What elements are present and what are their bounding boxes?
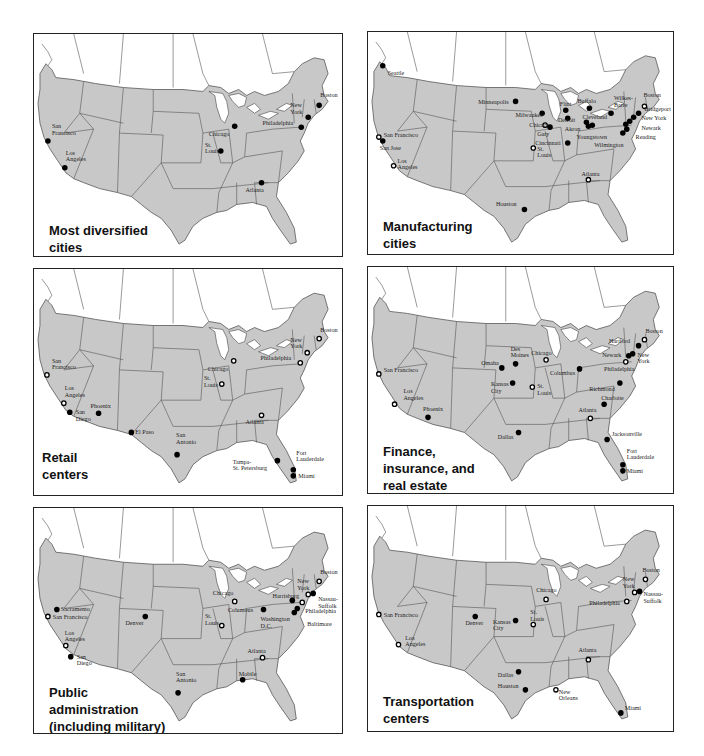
filled-city-dot-icon: [587, 106, 593, 112]
city-label: Boston: [645, 328, 662, 334]
filled-city-dot-icon: [261, 607, 267, 613]
city-label: Baltimore: [307, 619, 332, 626]
city-label: Miami: [627, 468, 643, 474]
city-label: Youngstown: [577, 134, 608, 140]
canada-border-line: [119, 269, 123, 319]
city-label: El Paso: [135, 428, 154, 435]
city-label: Charlotte: [601, 395, 624, 401]
filled-city-dot-icon: [96, 410, 102, 416]
open-city-dot-icon: [62, 401, 66, 405]
city-label: NewYork: [638, 352, 651, 365]
city-label: Atlanta: [579, 647, 597, 653]
map-panel-public-administration: BostonNewYorkNassau-SuffolkHarrisburgPhi…: [33, 507, 343, 734]
canada-border-line: [74, 269, 84, 309]
filled-city-dot-icon: [620, 130, 626, 136]
city-label: San Francisco: [384, 132, 418, 138]
filled-city-dot-icon: [601, 401, 607, 407]
open-city-dot-icon: [391, 164, 395, 168]
city-label: San Francisco: [53, 613, 88, 620]
filled-city-dot-icon: [298, 124, 304, 130]
open-city-dot-icon: [586, 657, 590, 661]
map-panel-finance: BostonHartfordNewarkNewYorkPhiladelphiaC…: [367, 266, 674, 494]
canada-border-line: [407, 267, 417, 307]
city-label: Boston: [643, 567, 660, 573]
city-label: Denver: [125, 618, 143, 625]
city-label: NewYork: [297, 577, 310, 591]
city-label: Phoenix: [423, 406, 443, 412]
city-marker: NewOrleans: [554, 688, 579, 702]
city-marker: FortLauderdale: [291, 449, 325, 473]
city-label: FortLauderdale: [296, 449, 324, 463]
canada-border-line: [594, 267, 625, 307]
city-label: NewYork: [290, 102, 303, 114]
filled-city-dot-icon: [547, 124, 553, 130]
canada-border-line: [263, 269, 295, 309]
city-label: FortLauderdale: [627, 448, 655, 461]
city-label: Reading: [636, 134, 656, 140]
canada-border-line: [42, 279, 52, 301]
filled-city-dot-icon: [292, 610, 298, 616]
city-marker: Nassau-Suffolk: [637, 589, 663, 604]
city-label: Houston: [496, 201, 517, 207]
canada-border-line: [525, 267, 541, 319]
open-city-dot-icon: [377, 135, 381, 139]
filled-city-dot-icon: [316, 103, 322, 109]
panel-title: Most diversified cities: [49, 222, 148, 256]
city-label: Phoenix: [91, 402, 112, 409]
filled-city-dot-icon: [291, 473, 297, 479]
filled-city-dot-icon: [513, 361, 519, 367]
map-panel-most-diversified: BostonNewYorkPhiladelphiaChicagoSt.Louis…: [33, 33, 343, 257]
filled-city-dot-icon: [68, 654, 74, 660]
filled-city-dot-icon: [513, 618, 519, 624]
open-city-dot-icon: [396, 642, 400, 646]
city-label: New York: [642, 115, 668, 121]
city-label: Tampa-St. Petersburg: [233, 458, 267, 472]
city-label: Columbus: [228, 606, 254, 613]
city-label: Sacramento: [61, 605, 90, 612]
canada-border-line: [594, 506, 625, 546]
open-city-dot-icon: [220, 623, 224, 627]
filled-city-dot-icon: [472, 614, 478, 620]
filled-city-dot-icon: [380, 63, 386, 69]
open-city-dot-icon: [233, 599, 237, 603]
city-label: Flint: [560, 101, 572, 107]
city-marker: Miami: [620, 468, 643, 474]
open-city-dot-icon: [377, 612, 381, 616]
canada-border-line: [407, 32, 417, 72]
city-label: Omaha: [481, 360, 499, 366]
city-label: Boston: [320, 568, 337, 575]
open-city-dot-icon: [544, 597, 548, 601]
filled-city-dot-icon: [54, 607, 60, 613]
city-label: Mobile: [239, 670, 257, 677]
open-city-dot-icon: [306, 592, 310, 596]
filled-city-dot-icon: [305, 114, 311, 120]
city-label: Newark: [602, 352, 622, 358]
canada-border-line: [376, 277, 386, 299]
open-city-dot-icon: [305, 351, 309, 355]
canada-border-line: [42, 44, 52, 66]
city-label: Dallas: [498, 672, 514, 678]
filled-city-dot-icon: [608, 110, 614, 116]
city-label: Wilmington: [594, 142, 623, 148]
us-land-shape: [372, 56, 659, 242]
filled-city-dot-icon: [631, 114, 637, 120]
city-label: Richmond: [589, 386, 614, 392]
filled-city-dot-icon: [259, 180, 265, 186]
open-city-dot-icon: [377, 372, 381, 376]
city-label: NewYork: [623, 576, 636, 589]
canada-border-line: [193, 34, 209, 86]
panel-title: Retail centers: [42, 449, 88, 483]
city-label: Atlanta: [582, 171, 600, 177]
open-city-dot-icon: [531, 622, 535, 626]
panel-title: Finance, insurance, and real estate: [383, 443, 475, 494]
city-label: Columbus: [550, 370, 576, 376]
us-land-shape: [38, 58, 328, 244]
open-city-dot-icon: [554, 688, 558, 692]
filled-city-dot-icon: [275, 458, 281, 464]
filled-city-dot-icon: [240, 677, 246, 683]
city-label: Boston: [643, 92, 660, 98]
city-label: Philadelphia: [263, 120, 294, 126]
city-label: Atlanta: [246, 187, 264, 193]
open-city-dot-icon: [298, 361, 302, 365]
city-label: Detroit: [558, 117, 576, 123]
